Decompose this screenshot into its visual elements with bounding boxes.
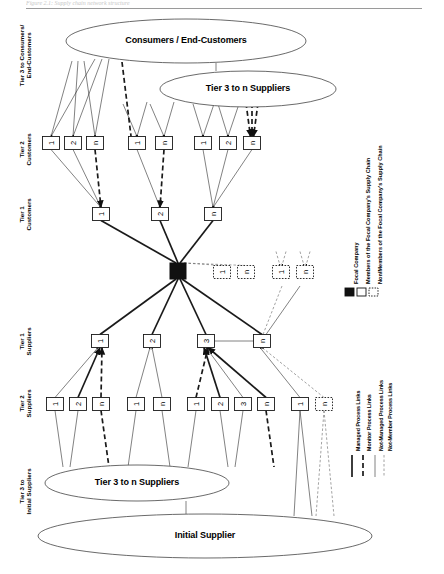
- node-tier2-customer-n-2: n: [87, 137, 104, 150]
- node-tier2-supplier-n-4: n: [154, 398, 171, 411]
- node-nonmember-customer-n-3: n: [297, 266, 314, 279]
- svg-text:1: 1: [218, 270, 227, 274]
- svg-text:1: 1: [192, 402, 201, 406]
- node-tier2-supplier-3-7: 3: [235, 398, 252, 411]
- svg-text:1: 1: [97, 212, 106, 216]
- node-tier2-customer-2-1: 2: [65, 137, 82, 150]
- svg-text:n: n: [158, 402, 167, 406]
- node-tier1-supplier-n: n: [254, 335, 271, 348]
- node-tier2-customer-2-6: 2: [220, 137, 237, 150]
- legend-link-not-member: Not-Member Process Links: [387, 383, 393, 451]
- legend-entity-focal-company: Focal Company: [353, 242, 359, 284]
- node-tier1-supplier-2: 2: [144, 335, 161, 348]
- svg-text:n: n: [160, 141, 169, 145]
- node-tier2-supplier-n-2: n: [93, 398, 110, 411]
- svg-text:1: 1: [277, 270, 286, 274]
- node-tier2-supplier-1-9: 1: [292, 398, 309, 411]
- svg-text:1: 1: [199, 141, 208, 145]
- node-tier2-customer-1-5: 1: [195, 137, 212, 150]
- svg-text:1: 1: [296, 402, 305, 406]
- node-tier1-customer-1: 1: [93, 208, 110, 221]
- svg-text:n: n: [91, 141, 100, 145]
- svg-text:2: 2: [74, 402, 83, 406]
- svg-text:1: 1: [132, 402, 141, 406]
- node-tier1-supplier-1: 1: [92, 335, 109, 348]
- svg-text:1: 1: [47, 141, 56, 145]
- svg-text:n: n: [258, 339, 267, 343]
- node-tier2-supplier-n-8: n: [258, 398, 275, 411]
- svg-text:2: 2: [148, 339, 157, 343]
- svg-text:3: 3: [202, 339, 211, 343]
- tier-label-tier1-customers: Tier 1Customers: [18, 179, 33, 249]
- node-focal-company: [170, 263, 186, 279]
- node-tier2-supplier-1-0: 1: [47, 398, 64, 411]
- svg-text:1: 1: [133, 141, 142, 145]
- svg-text:n: n: [248, 141, 257, 145]
- legend-entity-members: Members of the Focal Company's Supply Ch…: [365, 158, 371, 284]
- ellipse-label-initial-supplier: Initial Supplier: [38, 530, 372, 540]
- node-tier2-supplier-n-10: n: [316, 398, 333, 411]
- tier-label-tier2-customers: Tier 2Customers: [18, 114, 33, 184]
- svg-text:2: 2: [69, 141, 78, 145]
- node-nonmember-customer-n-1: n: [238, 266, 255, 279]
- legend-link-not-managed: Not-Managed Process Links: [378, 380, 384, 451]
- node-layer: 12n1n12n12n1n1n123n12n1n123n1n: [43, 137, 333, 411]
- tier-label-tier3-consumers: Tier 3 to Consumers/End-Customers: [18, 20, 33, 90]
- node-tier2-customer-n-4: n: [156, 137, 173, 150]
- node-tier2-supplier-1-5: 1: [188, 398, 205, 411]
- svg-text:1: 1: [96, 339, 105, 343]
- tier-label-tier2-suppliers: Tier 2Suppliers: [18, 368, 33, 438]
- ellipse-label-tier3-n-suppliers-bottom: Tier 3 to n Suppliers: [45, 477, 229, 487]
- svg-text:n: n: [209, 212, 218, 216]
- svg-text:2: 2: [216, 402, 225, 406]
- svg-text:n: n: [97, 402, 106, 406]
- node-tier2-supplier-1-3: 1: [128, 398, 145, 411]
- legend-entity-non-members: Non/Members of the Focal Company's Suppl…: [377, 145, 383, 284]
- node-tier1-customer-2: 2: [152, 208, 169, 221]
- svg-text:n: n: [242, 270, 251, 274]
- ellipse-label-tier3-n-suppliers-top: Tier 3 to n Suppliers: [160, 83, 336, 93]
- node-nonmember-customer-1-0: 1: [214, 266, 231, 279]
- legend-link-managed: Managed Process Links: [355, 391, 361, 451]
- node-tier2-customer-n-7: n: [244, 137, 261, 150]
- svg-text:1: 1: [51, 402, 60, 406]
- node-tier1-customer-n: n: [205, 208, 222, 221]
- svg-text:n: n: [301, 270, 310, 274]
- svg-text:2: 2: [224, 141, 233, 145]
- legend-link-monitor: Monitor Process Links: [366, 394, 372, 451]
- link-layer: [51, 59, 334, 516]
- node-nonmember-customer-1-2: 1: [273, 266, 290, 279]
- node-tier2-supplier-2-6: 2: [212, 398, 229, 411]
- node-tier2-customer-1-3: 1: [129, 137, 146, 150]
- figure-supply-chain-network: Figure 2.1: Supply chain network structu…: [0, 0, 444, 574]
- tier-label-tier3-initial-suppliers: Tier 3 toInitial Suppliers: [18, 456, 33, 526]
- node-tier2-customer-1-0: 1: [43, 137, 60, 150]
- svg-text:3: 3: [239, 402, 248, 406]
- node-tier1-supplier-3: 3: [198, 335, 215, 348]
- svg-text:n: n: [320, 402, 329, 406]
- tier-label-tier1-suppliers: Tier 1Suppliers: [18, 306, 33, 376]
- svg-text:2: 2: [156, 212, 165, 216]
- node-tier2-supplier-2-1: 2: [70, 398, 87, 411]
- ellipse-label-consumers: Consumers / End-Customers: [66, 35, 306, 45]
- svg-text:n: n: [262, 402, 271, 406]
